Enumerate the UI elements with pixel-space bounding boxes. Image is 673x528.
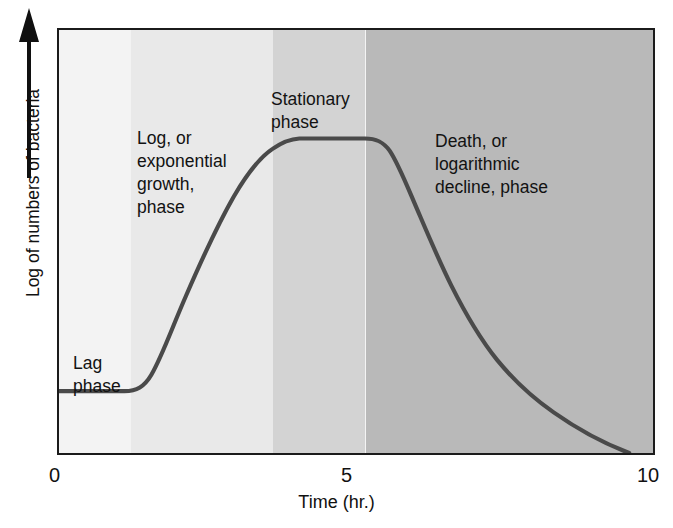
y-axis-title: Log of numbers of bacteria (18, 68, 48, 318)
y-axis-group: Log of numbers of bacteria (0, 0, 56, 460)
x-axis-title: Time (hr.) (0, 492, 673, 513)
x-axis-ticks: 0 5 10 (0, 462, 673, 490)
plot-area: Lag phase Log, or exponential growth, ph… (57, 28, 655, 455)
growth-curve-figure: Log of numbers of bacteria Lag phase Log… (0, 0, 673, 528)
annotation-death-phase: Death, or logarithmic decline, phase (435, 130, 548, 199)
annotation-lag-phase: Lag phase (73, 352, 121, 398)
x-tick-label-10: 10 (637, 462, 659, 488)
annotation-log-phase: Log, or exponential growth, phase (137, 127, 227, 219)
annotation-stationary-phase: Stationary phase (271, 88, 350, 134)
x-tick-label-5: 5 (341, 462, 352, 488)
growth-curve-line (59, 30, 653, 453)
x-tick-label-0: 0 (49, 462, 60, 488)
